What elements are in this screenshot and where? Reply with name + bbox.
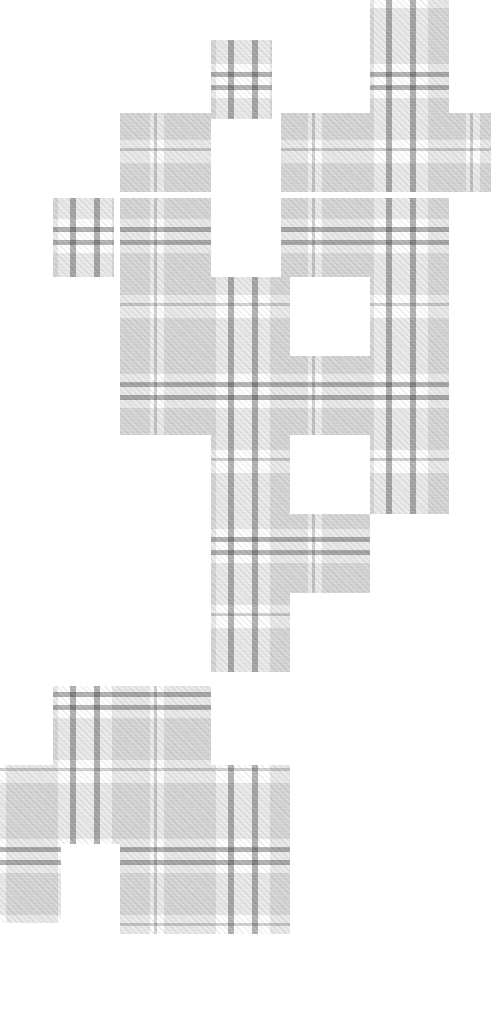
mosaic-tile	[370, 356, 449, 435]
mosaic-tile	[211, 514, 290, 593]
mosaic-tile	[211, 593, 290, 672]
mosaic-tile	[211, 435, 290, 514]
mosaic-tile	[370, 113, 491, 192]
mosaic-tile	[281, 198, 370, 277]
mosaic-tile	[211, 844, 290, 934]
mosaic-tile	[211, 356, 290, 435]
mosaic-tile	[120, 113, 211, 192]
mosaic-tile	[120, 686, 211, 765]
mosaic-tile	[120, 356, 211, 435]
mosaic-tile	[53, 198, 114, 277]
mosaic-tile	[120, 765, 211, 844]
mosaic-tile	[281, 356, 370, 435]
mosaic-tile	[211, 765, 290, 844]
mosaic-tile	[281, 514, 370, 593]
mosaic-tile	[370, 198, 449, 277]
mosaic-tile	[120, 844, 211, 934]
tartan-canvas	[0, 0, 491, 1027]
mosaic-tile	[211, 40, 272, 119]
mosaic-tile	[370, 277, 449, 356]
mosaic-tile	[120, 198, 211, 277]
mosaic-tile	[120, 277, 211, 356]
mosaic-tile	[370, 435, 449, 514]
mosaic-tile	[0, 765, 61, 844]
mosaic-tile	[370, 0, 449, 40]
mosaic-tile	[211, 277, 290, 356]
mosaic-tile	[0, 844, 61, 923]
mosaic-tile	[370, 40, 449, 119]
mosaic-tile	[281, 113, 370, 192]
